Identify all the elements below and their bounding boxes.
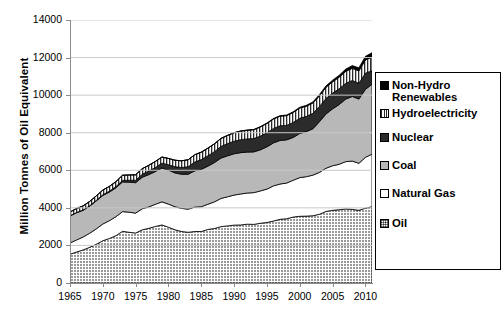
- x-tick-mark: [267, 283, 268, 287]
- y-tick-label: 8000: [2, 127, 62, 137]
- legend-swatch-icon: [380, 81, 389, 90]
- y-axis-title: Million Tonnes of Oil Equivalent: [18, 26, 30, 266]
- legend-label: Oil: [392, 217, 407, 229]
- y-tick-label: 10000: [2, 89, 62, 99]
- y-tick-label: 14000: [2, 14, 62, 24]
- chart-legend: Non-Hydro RenewablesHydroelectricityNucl…: [375, 72, 501, 270]
- x-tick-mark: [234, 283, 235, 287]
- y-tick-mark: [66, 208, 70, 209]
- x-tick-mark: [136, 283, 137, 287]
- legend-item-hydroelectricity[interactable]: Hydroelectricity: [380, 107, 477, 119]
- legend-swatch-icon: [380, 161, 389, 170]
- legend-swatch-icon: [380, 109, 389, 118]
- y-tick-mark: [66, 58, 70, 59]
- legend-label: Hydroelectricity: [392, 107, 477, 119]
- legend-item-non-hydro-renewables[interactable]: Non-Hydro Renewables: [380, 79, 457, 104]
- plot-area: [70, 20, 372, 283]
- y-tick-mark: [66, 20, 70, 21]
- x-tick-mark: [168, 283, 169, 287]
- x-axis-line: [70, 283, 373, 284]
- y-tick-mark: [66, 170, 70, 171]
- legend-item-natural-gas[interactable]: Natural Gas: [380, 187, 455, 199]
- y-tick-label: 4000: [2, 202, 62, 212]
- y-axis-line: [70, 20, 71, 284]
- legend-item-oil[interactable]: Oil: [380, 217, 407, 229]
- y-tick-mark: [66, 245, 70, 246]
- x-tick-mark: [333, 283, 334, 287]
- legend-item-nuclear[interactable]: Nuclear: [380, 131, 433, 143]
- x-tick-mark: [103, 283, 104, 287]
- chart-container: Million Tonnes of Oil Equivalent 1400012…: [0, 0, 502, 317]
- legend-swatch-icon: [380, 189, 389, 198]
- x-tick-label: 2010: [345, 290, 385, 302]
- x-tick-mark: [300, 283, 301, 287]
- legend-swatch-icon: [380, 219, 389, 228]
- y-tick-label: 6000: [2, 164, 62, 174]
- legend-label: Natural Gas: [392, 187, 455, 199]
- legend-label: Nuclear: [392, 131, 433, 143]
- legend-item-coal[interactable]: Coal: [380, 159, 416, 171]
- x-tick-mark: [201, 283, 202, 287]
- y-tick-label: 0: [2, 277, 62, 287]
- y-tick-mark: [66, 95, 70, 96]
- stacked-area-svg: [70, 20, 372, 283]
- legend-label: Non-Hydro Renewables: [392, 79, 457, 104]
- x-tick-mark: [365, 283, 366, 287]
- y-tick-mark: [66, 133, 70, 134]
- y-tick-label: 2000: [2, 239, 62, 249]
- legend-label: Coal: [392, 159, 416, 171]
- legend-swatch-icon: [380, 133, 389, 142]
- y-tick-label: 12000: [2, 52, 62, 62]
- x-tick-mark: [70, 283, 71, 287]
